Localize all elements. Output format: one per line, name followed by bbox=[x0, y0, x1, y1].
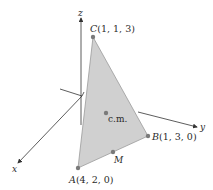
y-axis-label: y bbox=[199, 122, 206, 132]
point-c bbox=[91, 35, 95, 39]
z-axis-label: z bbox=[77, 8, 83, 18]
point-a bbox=[76, 166, 80, 170]
point-m bbox=[111, 150, 115, 154]
y-axis-back bbox=[60, 89, 82, 96]
label-c: C(1, 1, 3) bbox=[90, 23, 135, 34]
triangle-3d-diagram: z y x C(1, 1, 3) B(1, 3, 0) A(4, 2, 0) M… bbox=[0, 0, 213, 190]
label-a: A(4, 2, 0) bbox=[68, 174, 114, 185]
x-axis-back bbox=[82, 92, 84, 96]
y-axis bbox=[138, 112, 197, 127]
x-axis-label: x bbox=[12, 164, 17, 174]
label-b: B(1, 3, 0) bbox=[151, 131, 197, 142]
label-cm: c.m. bbox=[108, 114, 127, 124]
point-b bbox=[146, 134, 150, 138]
x-axis bbox=[18, 96, 82, 163]
label-m: M bbox=[113, 155, 124, 165]
triangle-abc bbox=[78, 37, 148, 168]
